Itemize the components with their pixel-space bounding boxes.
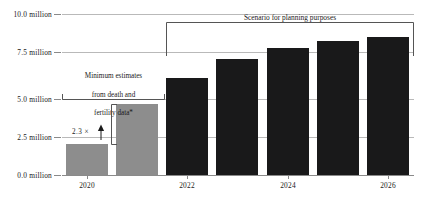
y-axis-dash-2-5m: [54, 137, 61, 138]
bar-2023: [216, 59, 258, 175]
gridline-7-5m: [62, 52, 414, 53]
scenario-annotation: Scenario for planning purposes: [166, 13, 414, 22]
minimum-estimates-annotation: Minimum estimates from death and fertili…: [62, 63, 165, 127]
y-axis-label-0m: 0.0 million: [0, 171, 52, 180]
y-axis-dash-5m: [54, 99, 61, 100]
x-axis-label-2026: 2026: [368, 181, 408, 190]
x-axis-label-2020: 2020: [67, 181, 107, 190]
x-tick-2026: [388, 175, 389, 179]
x-tick-2022: [187, 175, 188, 179]
bar-2022: [166, 78, 208, 175]
minimum-estimates-line-3: fertility data*: [62, 109, 165, 118]
y-axis-dash-0m: [54, 175, 61, 176]
minimum-estimates-line-2: from death and: [62, 91, 165, 100]
multiplier-annotation: 2.3 ×: [72, 128, 89, 136]
x-axis-line: [62, 175, 414, 176]
x-tick-2024: [288, 175, 289, 179]
y-axis-dash-7-5m: [54, 52, 61, 53]
y-axis-label-10m: 10.0 million: [0, 10, 52, 19]
x-axis-label-2022: 2022: [167, 181, 207, 190]
bar-2025: [317, 41, 359, 175]
minimum-estimates-line-1: Minimum estimates: [62, 72, 165, 81]
x-axis-label-2024: 2024: [268, 181, 308, 190]
bar-2026: [367, 37, 409, 175]
bar-2024: [267, 48, 309, 175]
x-tick-2020: [87, 175, 88, 179]
bar-chart: 10.0 million 7.5 million 5.0 million 2.5…: [0, 0, 426, 210]
y-axis-dash-10m: [54, 14, 61, 15]
y-axis-label-5m: 5.0 million: [0, 95, 52, 104]
y-axis-label-7-5m: 7.5 million: [0, 48, 52, 57]
y-axis-label-2-5m: 2.5 million: [0, 133, 52, 142]
bar-2020: [66, 144, 108, 175]
